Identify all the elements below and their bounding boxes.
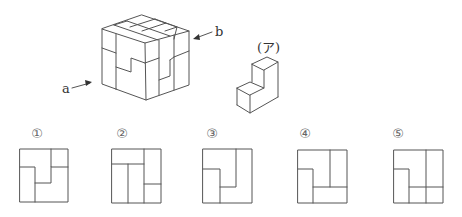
- option-2-label: ②: [116, 126, 128, 141]
- option-1-label: ①: [31, 126, 43, 141]
- arrow-head-icon: [85, 80, 92, 86]
- option-4[interactable]: ④: [298, 126, 347, 203]
- option-1[interactable]: ①: [20, 126, 68, 202]
- option-2[interactable]: ②: [112, 126, 161, 203]
- label-a: a: [62, 81, 70, 96]
- piece-label: (ア): [257, 40, 280, 55]
- arrow-head-icon: [193, 34, 200, 40]
- option-3[interactable]: ③: [203, 126, 252, 203]
- assembled-cube: [102, 15, 189, 100]
- arrow-b: b: [193, 24, 223, 40]
- puzzle-figure: a b (ア) ① ② ③: [0, 0, 462, 217]
- option-4-label: ④: [299, 126, 311, 141]
- label-b: b: [215, 24, 223, 39]
- piece-a: (ア): [237, 40, 280, 113]
- arrow-a: a: [62, 80, 92, 96]
- option-5-label: ⑤: [392, 126, 404, 141]
- option-5[interactable]: ⑤: [392, 126, 443, 203]
- option-3-label: ③: [206, 126, 218, 141]
